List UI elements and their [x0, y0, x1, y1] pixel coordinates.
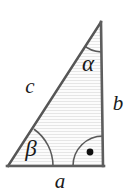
angle-label-alpha: α: [82, 52, 94, 75]
angle-label-beta: β: [25, 137, 36, 160]
side-label-c: c: [25, 76, 34, 97]
side-label-b: b: [113, 93, 124, 114]
side-label-a: a: [55, 171, 66, 192]
right-angle-dot-icon: [87, 149, 94, 156]
geometry-figure: a b c α β: [0, 0, 136, 194]
